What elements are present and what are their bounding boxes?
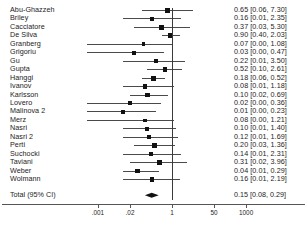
x-axis-line [2, 204, 305, 205]
forest-plot: Abu-GhazzehBrileyCacciatoreDe SilvaGranb… [0, 0, 307, 245]
x-axis-tick-label: .02 [110, 209, 150, 216]
x-axis-tick-label: 1 [152, 209, 192, 216]
x-axis-tick-label: 1000 [226, 209, 266, 216]
